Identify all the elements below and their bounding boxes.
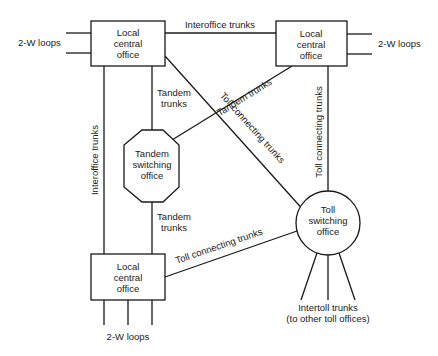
intertoll-trunk [301, 253, 317, 300]
intertoll-trunk [339, 253, 355, 300]
toll-connecting-diagonal [165, 56, 306, 213]
node-local-bottom-left: Local central office [91, 254, 165, 300]
label-loops-right: 2-W loops [378, 38, 421, 49]
node-label: switching [308, 215, 347, 226]
label-tandem-upper: Tandem [157, 87, 191, 98]
node-label: office [117, 49, 140, 60]
node-toll-switching-office: Toll switching office [296, 191, 360, 255]
label-intertoll: (to other toll offices) [286, 313, 369, 324]
node-local-top-right: Local central office [276, 21, 347, 66]
label-tandem-upper: trunks [161, 98, 187, 109]
label-toll-bottom: Toll connecting trunks [174, 226, 264, 266]
label-tandem-lower: trunks [161, 222, 187, 233]
label-loops-left: 2-W loops [18, 37, 61, 48]
node-label: office [117, 283, 140, 294]
node-label: switching [132, 159, 171, 170]
node-local-top-left: Local central office [91, 21, 165, 66]
label-loops-bottom: 2-W loops [107, 331, 150, 342]
node-label: Toll [321, 204, 335, 215]
label-toll-vertical: Toll connecting trunks [313, 86, 324, 178]
node-label: central [114, 272, 143, 283]
node-label: Local [300, 28, 323, 39]
node-label: central [297, 39, 326, 50]
node-label: office [300, 50, 323, 61]
node-label: Local [117, 27, 140, 38]
telephone-network-diagram: Local central office Local central offic… [0, 0, 438, 356]
label-tandem-lower: Tandem [157, 211, 191, 222]
node-label: central [114, 38, 143, 49]
label-interoffice-left: Interoffice trunks [89, 125, 100, 195]
node-label: office [141, 170, 164, 181]
node-tandem-switching-office: Tandem switching office [124, 130, 179, 202]
label-intertoll: Intertoll trunks [298, 302, 358, 313]
node-label: office [317, 226, 340, 237]
node-label: Local [117, 261, 140, 272]
edge-labels: 2-W loops 2-W loops 2-W loops Interoffic… [18, 19, 421, 342]
node-label: Tandem [135, 148, 169, 159]
label-interoffice-top: Interoffice trunks [185, 19, 255, 30]
